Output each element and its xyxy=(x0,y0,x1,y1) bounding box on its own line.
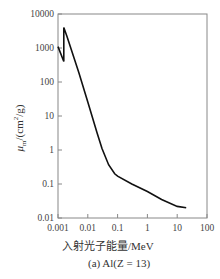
y-axis-label: μm/(cm2/g) xyxy=(12,105,28,152)
svg-text:0.1: 0.1 xyxy=(42,179,54,189)
svg-text:0.1: 0.1 xyxy=(112,223,124,233)
plot-frame xyxy=(58,14,207,218)
x-axis-ticks: 0.0010.010.1110100 xyxy=(47,214,214,233)
svg-text:10: 10 xyxy=(172,223,182,233)
svg-text:0.01: 0.01 xyxy=(79,223,96,233)
attenuation-curve xyxy=(58,28,186,208)
y-axis-ticks: 0.010.1110100100010000 xyxy=(30,9,62,223)
svg-text:10: 10 xyxy=(45,111,55,121)
svg-text:1: 1 xyxy=(49,145,54,155)
x-axis-label: 入射光子能量/MeV xyxy=(62,237,154,253)
svg-text:1: 1 xyxy=(145,223,150,233)
svg-text:1000: 1000 xyxy=(35,43,54,53)
svg-text:10000: 10000 xyxy=(30,9,54,19)
svg-text:100: 100 xyxy=(200,223,215,233)
figure-caption: (a) Al(Z = 13) xyxy=(88,257,150,269)
svg-text:0.01: 0.01 xyxy=(37,213,54,223)
svg-text:0.001: 0.001 xyxy=(47,223,69,233)
svg-text:100: 100 xyxy=(40,77,55,87)
